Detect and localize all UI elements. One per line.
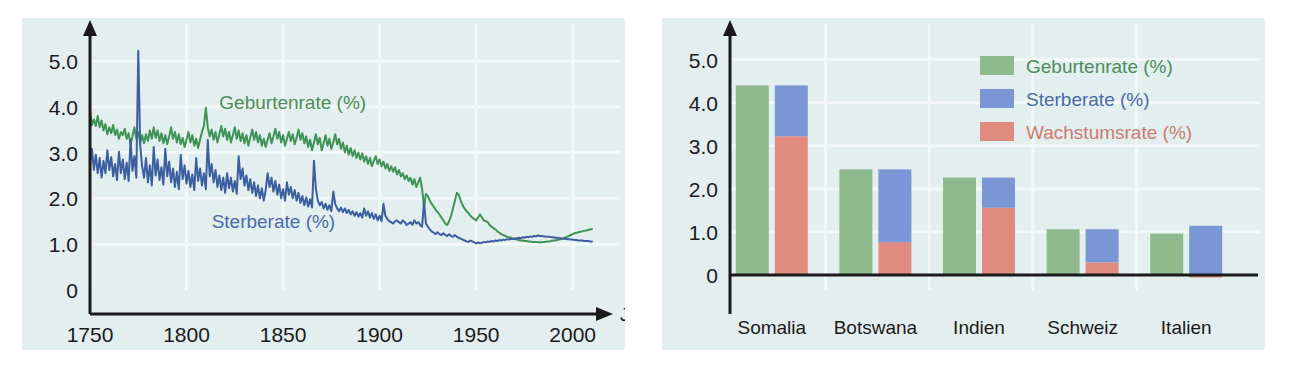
x-tick-label: 1850 <box>260 323 307 346</box>
x-tick-label: 1950 <box>453 323 500 346</box>
bar-geburtenrate <box>839 169 872 275</box>
bar-geburtenrate <box>736 85 769 275</box>
x-tick-label: 2000 <box>549 323 596 346</box>
y-tick-label: 4.0 <box>49 96 78 119</box>
y-axis-arrow <box>83 20 97 36</box>
y-tick-label: 0 <box>706 264 718 287</box>
annotation-sterberate: Sterberate (%) <box>212 211 336 232</box>
legend-item-wachstumsrate-label: Wachstumsrate (%) <box>1026 122 1192 143</box>
y-tick-label: 1.0 <box>689 221 718 244</box>
x-tick-label: 1800 <box>163 323 210 346</box>
bar-sterberate <box>982 178 1015 208</box>
x-tick-label: 1750 <box>67 323 114 346</box>
x-axis-title: Jahr <box>620 304 625 325</box>
x-axis-arrow <box>596 307 613 321</box>
y-tick-label: 3.0 <box>49 142 78 165</box>
y-tick-label: 5.0 <box>689 49 718 72</box>
bar-geburtenrate <box>943 178 976 275</box>
y-tick-label: 4.0 <box>689 92 718 115</box>
y-tick-label: 2.0 <box>49 187 78 210</box>
figure-root: 01.02.03.04.05.0175018001850190019502000… <box>0 0 1293 368</box>
line-chart-panel: 01.02.03.04.05.0175018001850190019502000… <box>22 18 625 350</box>
category-label: Botswana <box>834 317 918 338</box>
category-label: Schweiz <box>1047 317 1118 338</box>
bar-wachstumsrate <box>878 242 911 275</box>
x-tick-label: 1900 <box>356 323 403 346</box>
bar-sterberate <box>1189 226 1222 275</box>
legend-item-geburtenrate-label: Geburtenrate (%) <box>1026 56 1173 77</box>
y-tick-label: 3.0 <box>689 135 718 158</box>
bar-chart-svg: 01.02.03.04.05.0SomaliaBotswanaIndienSch… <box>662 18 1265 350</box>
category-label: Somalia <box>737 317 806 338</box>
y-tick-label: 1.0 <box>49 233 78 256</box>
annotation-geburtenrate: Geburtenrate (%) <box>219 92 366 113</box>
bar-sterberate <box>775 85 808 136</box>
bar-sterberate <box>1086 229 1119 262</box>
y-axis-arrow <box>723 20 737 36</box>
legend-item-sterberate-swatch[interactable] <box>980 89 1014 108</box>
legend-item-geburtenrate-swatch[interactable] <box>980 56 1014 75</box>
y-tick-label: 0 <box>66 279 78 302</box>
category-label: Indien <box>953 317 1005 338</box>
bar-geburtenrate <box>1047 229 1080 275</box>
legend-item-sterberate-label: Sterberate (%) <box>1026 89 1150 110</box>
bar-chart-panel: 01.02.03.04.05.0SomaliaBotswanaIndienSch… <box>662 18 1265 350</box>
y-tick-label: 2.0 <box>689 178 718 201</box>
bar-geburtenrate <box>1150 234 1183 275</box>
y-tick-label: 5.0 <box>49 50 78 73</box>
legend-item-wachstumsrate-swatch[interactable] <box>980 122 1014 141</box>
bar-wachstumsrate <box>775 136 808 275</box>
bar-wachstumsrate <box>1086 262 1119 274</box>
line-chart-svg: 01.02.03.04.05.0175018001850190019502000… <box>22 18 625 350</box>
category-label: Italien <box>1161 317 1212 338</box>
series-line-geburtenrate <box>90 108 592 243</box>
bar-wachstumsrate <box>982 208 1015 275</box>
bar-sterberate <box>878 169 911 242</box>
